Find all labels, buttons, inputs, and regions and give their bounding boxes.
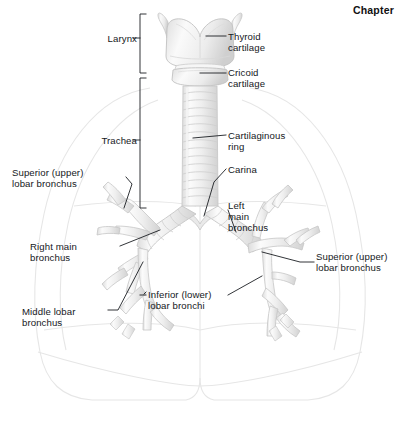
leader-right-main-bronchus [120, 230, 160, 246]
leader-inferior-lobar-left [144, 292, 146, 294]
leader-carina [204, 169, 226, 216]
label-left-main-bronchus: Left main bronchus [228, 200, 268, 233]
label-cartilaginous-ring: Cartilaginous ring [228, 130, 285, 152]
label-trachea: Trachea [60, 135, 137, 146]
label-middle-lobar-bronchus: Middle lobar bronchus [22, 306, 75, 328]
leader-right-superior-lobar [124, 177, 132, 208]
annotation-leaders [0, 0, 400, 425]
label-superior-lobar-bronchus-lower-right: Superior (upper) lobar bronchus [316, 251, 387, 273]
label-thyroid-cartilage: Thyroid cartilage [228, 31, 265, 53]
leader-left-superior-lobar [262, 252, 314, 262]
label-inferior-lobar-bronchi: Inferior (lower) lobar bronchi [148, 289, 211, 311]
label-cricoid-cartilage: Cricoid cartilage [228, 67, 265, 89]
leader-inferior-lobar-tick-r [228, 276, 262, 295]
label-superior-lobar-bronchus-upper-left: Superior (upper) lobar bronchus [12, 167, 83, 189]
label-carina: Carina [228, 164, 257, 175]
chapter-header-label: Chapter [353, 4, 394, 16]
label-right-main-bronchus: Right main bronchus [30, 241, 77, 263]
leader-cartilaginous-ring [193, 135, 226, 138]
label-larynx: Larynx [60, 33, 137, 44]
respiratory-anatomy-figure: Chapter Larynx Thyroid cartilage Cricoid… [0, 0, 400, 425]
leader-middle-lobar [108, 262, 143, 310]
